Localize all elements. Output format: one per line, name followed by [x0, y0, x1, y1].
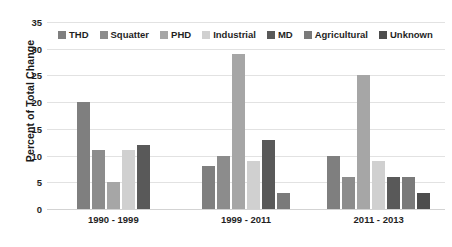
- bar-group: [312, 22, 445, 209]
- legend-item-label: MD: [278, 29, 293, 40]
- x-axis-group-label: 2011 - 2013: [312, 214, 445, 225]
- legend-swatch-icon: [58, 31, 66, 39]
- x-axis-group-label: 1999 - 2011: [180, 214, 313, 225]
- y-axis-tick-label: 25: [31, 70, 42, 81]
- legend-item-label: Squatter: [111, 29, 150, 40]
- legend-swatch-icon: [202, 31, 210, 39]
- legend-item-label: Agricultural: [315, 29, 368, 40]
- y-axis-tick-label: 10: [31, 150, 42, 161]
- legend-swatch-icon: [160, 31, 168, 39]
- bar-group: [180, 22, 313, 209]
- bar-chart: Percent of Total Change 05101520253035 1…: [0, 0, 452, 247]
- legend-swatch-icon: [267, 31, 275, 39]
- x-axis-group-label: 1990 - 1999: [47, 214, 180, 225]
- y-axis-tick-label: 15: [31, 123, 42, 134]
- bar: [342, 177, 355, 209]
- x-axis-labels: 1990 - 19991999 - 20112011 - 2013: [47, 214, 445, 225]
- y-axis-tick-label: 0: [37, 204, 42, 215]
- plot-area: 05101520253035: [47, 22, 445, 209]
- bar: [357, 75, 370, 209]
- bar: [122, 150, 135, 209]
- chart-legend: THDSquatterPHDIndustrialMDAgriculturalUn…: [56, 28, 435, 41]
- bar: [92, 150, 105, 209]
- legend-item[interactable]: Agricultural: [304, 29, 368, 40]
- legend-item-label: PHD: [171, 29, 191, 40]
- legend-item[interactable]: THD: [58, 29, 89, 40]
- bar-groups: [47, 22, 445, 209]
- legend-item[interactable]: MD: [267, 29, 293, 40]
- bar: [77, 102, 90, 209]
- bar: [217, 156, 230, 209]
- bar: [202, 166, 215, 209]
- bar: [372, 161, 385, 209]
- legend-swatch-icon: [379, 31, 387, 39]
- y-axis-tick-label: 35: [31, 17, 42, 28]
- legend-swatch-icon: [100, 31, 108, 39]
- bar: [247, 161, 260, 209]
- bars-row: [47, 22, 180, 209]
- bar: [387, 177, 400, 209]
- y-axis-tick-label: 20: [31, 97, 42, 108]
- legend-item-label: Industrial: [213, 29, 256, 40]
- gridline: 0: [47, 209, 445, 210]
- bar: [107, 182, 120, 209]
- bar: [402, 177, 415, 209]
- legend-item-label: Unknown: [390, 29, 433, 40]
- legend-swatch-icon: [304, 31, 312, 39]
- bars-row: [180, 22, 313, 209]
- legend-item[interactable]: Industrial: [202, 29, 256, 40]
- bar: [262, 140, 275, 209]
- legend-item[interactable]: Squatter: [100, 29, 150, 40]
- bar: [137, 145, 150, 209]
- bars-row: [312, 22, 445, 209]
- legend-item-label: THD: [69, 29, 89, 40]
- legend-item[interactable]: Unknown: [379, 29, 433, 40]
- bar: [277, 193, 290, 209]
- bar-group: [47, 22, 180, 209]
- y-axis-tick-label: 5: [37, 177, 42, 188]
- y-axis-tick-label: 30: [31, 43, 42, 54]
- bar: [417, 193, 430, 209]
- bar: [327, 156, 340, 209]
- bar: [232, 54, 245, 209]
- legend-item[interactable]: PHD: [160, 29, 191, 40]
